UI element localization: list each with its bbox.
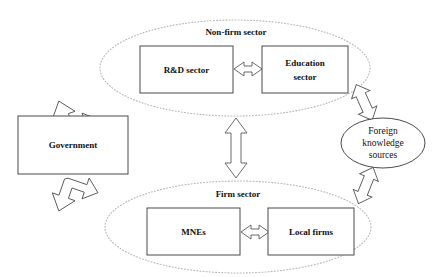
connector-non-firm-firm: [225, 118, 247, 178]
government-label: Government: [49, 140, 98, 150]
education-sector-label-line2: sector: [294, 72, 317, 82]
node-rnd-sector[interactable]: R&D sector: [140, 46, 233, 93]
node-local-firms[interactable]: Local firms: [268, 208, 354, 255]
education-sector-box[interactable]: [262, 46, 348, 93]
node-government[interactable]: Government: [18, 116, 128, 174]
mnes-label: MNEs: [181, 227, 206, 237]
rnd-sector-label: R&D sector: [164, 65, 210, 75]
connector-rnd-education: [234, 62, 262, 76]
connector-foreign-firm: [349, 164, 382, 208]
connector-non-firm-foreign: [347, 81, 381, 125]
connector-mnes-local-firms: [241, 225, 269, 239]
node-mnes[interactable]: MNEs: [147, 208, 240, 255]
firm-sector-label: Firm sector: [216, 189, 261, 199]
connector-government-firm: [47, 168, 101, 221]
foreign-knowledge-label-line3: sources: [369, 150, 398, 160]
node-foreign-knowledge-sources[interactable]: Foreign knowledge sources: [341, 118, 425, 168]
node-education-sector[interactable]: Education sector: [262, 46, 348, 93]
innovation-system-diagram: R&D sector Education sector Government M…: [0, 0, 439, 277]
foreign-knowledge-label-line1: Foreign: [368, 126, 398, 136]
foreign-knowledge-label-line2: knowledge: [362, 138, 404, 148]
education-sector-label-line1: Education: [285, 58, 325, 68]
local-firms-label: Local firms: [289, 227, 334, 237]
non-firm-sector-label: Non-firm sector: [205, 27, 266, 37]
diagram-canvas: R&D sector Education sector Government M…: [0, 0, 439, 277]
